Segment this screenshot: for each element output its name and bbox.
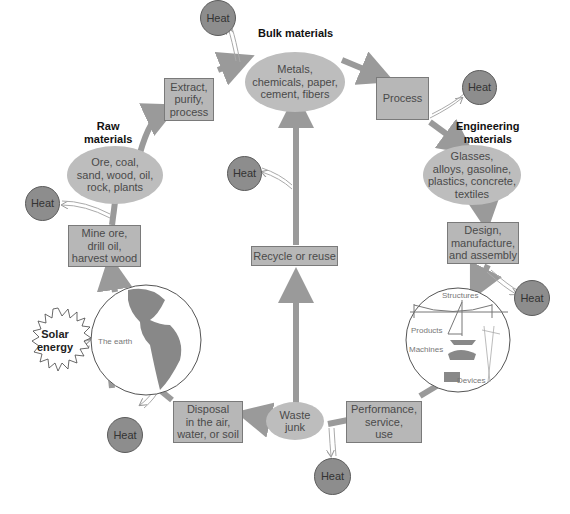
heat-disposal: Heat — [107, 417, 143, 453]
engineering-materials-node: Glasses, alloys, gasoline, plastics, con… — [423, 145, 521, 205]
disposal-node: Disposal in the air, water, or soil — [173, 401, 243, 443]
devices-label: Devices — [457, 376, 485, 385]
waste-junk-node: Waste junk — [266, 402, 324, 440]
bulk-materials-node: Metals, chemicals, paper, cement, fibers — [245, 52, 345, 112]
machines-label: Machines — [409, 345, 443, 354]
heat-mine: Heat — [25, 186, 60, 221]
mine-ore-node: Mine ore, drill oil, harvest wood — [68, 225, 141, 267]
solar-energy-label: Solar energy — [37, 328, 73, 354]
bulk-materials-title: Bulk materials — [258, 27, 333, 40]
raw-materials-title: Raw materials — [84, 120, 132, 146]
process-node: Process — [376, 77, 429, 120]
engineering-materials-title: Engineering materials — [456, 120, 520, 146]
heat-design: Heat — [514, 280, 550, 316]
heat-recycle: Heat — [227, 156, 262, 191]
heat-extract: Heat — [200, 0, 236, 36]
products-label: Products — [411, 326, 443, 335]
design-manufacture-node: Design, manufacture, and assembly — [447, 222, 519, 264]
extract-purify-process-node: Extract, purify, process — [164, 78, 214, 121]
heat-performance: Heat — [314, 458, 351, 495]
raw-materials-node: Ore, coal, sand, wood, oil, rock, plants — [67, 146, 163, 204]
structures-label: Structures — [442, 291, 478, 300]
heat-process: Heat — [462, 70, 497, 105]
performance-service-use-node: Performance, service, use — [346, 401, 422, 443]
recycle-reuse-node: Recycle or reuse — [251, 246, 338, 266]
earth-label: The earth — [98, 337, 132, 346]
